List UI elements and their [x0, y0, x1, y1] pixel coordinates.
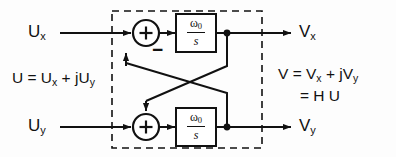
output-vy-base: V: [299, 116, 310, 135]
omega-symbol: ω: [190, 16, 198, 30]
omega-subscript: 0: [198, 21, 202, 31]
output-equation-line2: = H U: [300, 88, 340, 104]
output-vy-subscript: y: [310, 124, 316, 136]
input-uy-subscript: y: [40, 124, 46, 136]
output-equation-line1: V = Vx + jVy: [278, 66, 358, 84]
block-diagram: ω0 s ω0 s − Ux Uy Vx Vy U = Ux + jUy V =…: [0, 0, 396, 157]
transfer-function-bottom-numerator: ω0: [187, 111, 205, 127]
output-equation-head: V = V: [278, 65, 316, 82]
input-equation-head: U = U: [12, 69, 52, 86]
input-label-uy: Uy: [28, 117, 46, 136]
transfer-function-bottom-denominator: s: [194, 127, 199, 143]
output-label-vy: Vy: [299, 117, 316, 136]
input-equation: U = Ux + jUy: [12, 70, 95, 88]
output-vx-base: V: [299, 22, 310, 41]
transfer-function-top-denominator: s: [194, 33, 199, 49]
input-ux-subscript: x: [40, 30, 46, 42]
omega-subscript: 0: [198, 115, 202, 125]
output-equation-sub2: y: [353, 72, 358, 84]
transfer-function-bottom: ω0 s: [175, 107, 217, 147]
output-equation-tail: + jV: [322, 65, 353, 82]
output-label-vx: Vx: [299, 23, 316, 42]
input-ux-base: U: [28, 22, 40, 41]
input-label-ux: Ux: [28, 23, 46, 42]
input-uy-base: U: [28, 116, 40, 135]
input-equation-sub2: y: [90, 76, 95, 88]
output-vx-subscript: x: [310, 30, 316, 42]
negative-sign-top-summer: −: [152, 40, 163, 59]
transfer-function-top: ω0 s: [175, 13, 217, 53]
omega-symbol: ω: [190, 110, 198, 124]
transfer-function-top-numerator: ω0: [187, 17, 205, 33]
input-equation-tail: + jU: [57, 69, 89, 86]
